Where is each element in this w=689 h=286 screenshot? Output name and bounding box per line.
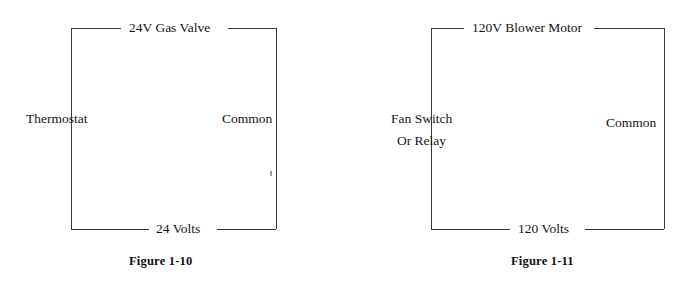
- label-bottom-24-volts: 24 Volts: [151, 221, 205, 237]
- label-top-120v-blower-motor: 120V Blower Motor: [467, 20, 587, 36]
- wire-top-right-segment: [228, 28, 276, 29]
- wire-top-left-segment: [71, 28, 121, 29]
- label-left-fan-switch: Fan Switch: [391, 111, 452, 127]
- diagram-canvas: 24V Gas Valve Thermostat Common 24 Volts…: [0, 0, 689, 286]
- label-top-24v-gas-valve: 24V Gas Valve: [124, 20, 215, 36]
- wire-left-vertical: [71, 28, 72, 229]
- label-left-thermostat: Thermostat: [26, 111, 87, 127]
- caption-figure-1-11: Figure 1-11: [511, 254, 574, 269]
- figure-1-11: 120V Blower Motor Fan Switch Or Relay Co…: [345, 0, 689, 286]
- scan-artifact-speck: [270, 171, 272, 176]
- wire-bottom-left-segment: [431, 229, 510, 230]
- wire-right-vertical: [276, 28, 277, 229]
- label-left-or-relay: Or Relay: [397, 133, 446, 149]
- wire-right-vertical: [664, 28, 665, 229]
- wire-left-vertical: [431, 28, 432, 229]
- wire-top-right-segment: [594, 28, 664, 29]
- label-right-common: Common: [606, 115, 656, 131]
- wire-bottom-right-segment: [217, 229, 276, 230]
- wire-bottom-right-segment: [585, 229, 664, 230]
- wire-bottom-left-segment: [71, 229, 149, 230]
- figure-1-10: 24V Gas Valve Thermostat Common 24 Volts…: [0, 0, 340, 286]
- caption-figure-1-10: Figure 1-10: [129, 254, 192, 269]
- label-right-common: Common: [222, 111, 272, 127]
- label-bottom-120-volts: 120 Volts: [513, 221, 574, 237]
- wire-top-left-segment: [431, 28, 464, 29]
